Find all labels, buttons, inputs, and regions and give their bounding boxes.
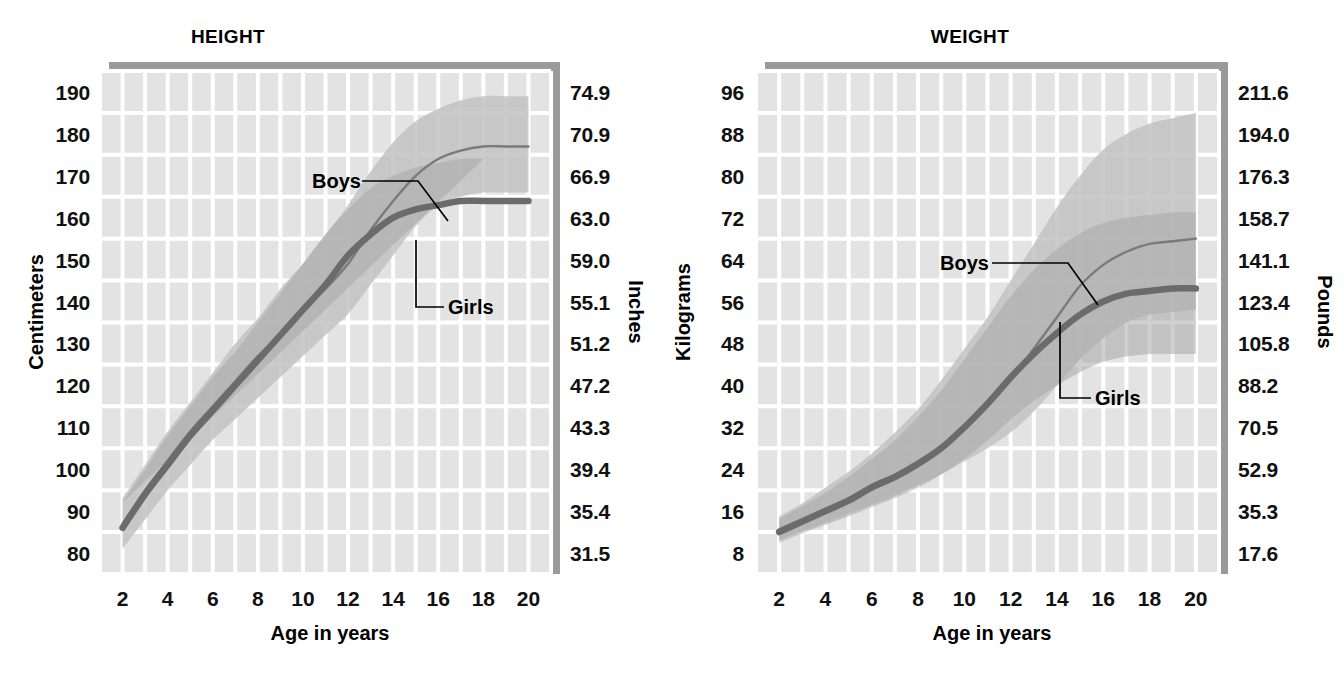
y-tick-label: 56	[721, 291, 744, 312]
height-y-right-title: Inches	[626, 280, 646, 343]
x-tick-label: 4	[162, 588, 174, 609]
y-tick-label-secondary: 35.4	[570, 501, 610, 522]
x-tick-label: 20	[517, 588, 540, 609]
x-tick-label: 6	[866, 588, 878, 609]
y-tick-label: 110	[57, 417, 90, 438]
height-panel-title: HEIGHT	[0, 26, 564, 48]
y-tick-label: 150	[56, 249, 90, 270]
y-tick-label: 40	[721, 375, 744, 396]
x-tick-label: 20	[1184, 588, 1207, 609]
weight-girls-label: Girls	[1095, 388, 1141, 408]
y-tick-label-secondary: 55.1	[570, 291, 610, 312]
y-tick-label-secondary: 43.3	[570, 417, 610, 438]
y-tick-label: 24	[721, 459, 744, 480]
y-tick-label-secondary: 66.9	[570, 165, 610, 186]
y-tick-label-secondary: 63.0	[570, 207, 610, 228]
y-tick-label: 64	[721, 249, 744, 270]
y-tick-label: 72	[721, 207, 744, 228]
height-panel: HEIGHT 190180170160150140130120110100908…	[0, 0, 672, 688]
y-tick-label: 80	[721, 165, 744, 186]
x-tick-label: 14	[1045, 588, 1068, 609]
y-tick-label: 48	[721, 333, 744, 354]
x-tick-label: 4	[820, 588, 832, 609]
weight-y-right-title: Pounds	[1315, 275, 1335, 348]
y-tick-label-secondary: 59.0	[570, 249, 610, 270]
y-tick-label-secondary: 39.4	[570, 459, 610, 480]
y-tick-label-secondary: 70.5	[1238, 417, 1278, 438]
x-tick-label: 6	[207, 588, 219, 609]
x-tick-label: 16	[427, 588, 450, 609]
x-tick-label: 2	[117, 588, 129, 609]
y-tick-label: 100	[56, 459, 90, 480]
y-tick-label-secondary: 105.8	[1238, 333, 1290, 354]
height-y-left-title: Centimeters	[26, 254, 46, 370]
weight-x-title: Age in years	[756, 622, 1228, 645]
x-tick-label: 18	[472, 588, 495, 609]
x-tick-label: 8	[252, 588, 264, 609]
y-tick-label: 80	[67, 543, 90, 564]
y-tick-label: 180	[56, 123, 90, 144]
y-tick-label-secondary: 194.0	[1238, 123, 1290, 144]
y-tick-label: 8	[733, 543, 744, 564]
x-tick-label: 14	[381, 588, 404, 609]
y-tick-label-secondary: 211.6	[1238, 81, 1288, 102]
y-tick-label: 120	[56, 375, 90, 396]
x-tick-label: 12	[999, 588, 1022, 609]
x-tick-label: 2	[773, 588, 785, 609]
weight-y-right-ticks: 211.6194.0176.3158.7141.1123.4105.888.27…	[1238, 62, 1324, 574]
y-tick-label: 130	[56, 333, 90, 354]
y-tick-label-secondary: 176.3	[1238, 165, 1290, 186]
x-tick-label: 18	[1138, 588, 1161, 609]
y-tick-label-secondary: 70.9	[570, 123, 610, 144]
y-tick-label-secondary: 47.2	[570, 375, 610, 396]
x-tick-label: 10	[953, 588, 976, 609]
x-tick-label: 10	[291, 588, 314, 609]
weight-plot-area	[756, 62, 1228, 574]
y-tick-label: 88	[721, 123, 744, 144]
y-tick-label-secondary: 141.1	[1238, 249, 1290, 270]
y-tick-label: 90	[67, 501, 90, 522]
y-tick-label: 32	[721, 417, 744, 438]
weight-x-ticks: 2468101214161820	[756, 588, 1228, 616]
y-tick-label-secondary: 31.5	[570, 543, 610, 564]
y-tick-label: 170	[56, 165, 90, 186]
y-tick-label-secondary: 88.2	[1238, 375, 1278, 396]
y-tick-label-secondary: 17.6	[1238, 543, 1278, 564]
weight-plot-svg	[756, 62, 1228, 574]
x-tick-label: 16	[1092, 588, 1115, 609]
y-tick-label: 96	[721, 81, 744, 102]
weight-boys-label: Boys	[940, 253, 989, 273]
y-tick-label-secondary: 158.7	[1238, 207, 1290, 228]
height-x-title: Age in years	[100, 622, 560, 645]
x-tick-label: 8	[912, 588, 924, 609]
y-tick-label-secondary: 123.4	[1238, 291, 1290, 312]
y-tick-label: 190	[56, 81, 90, 102]
y-tick-label: 160	[56, 207, 90, 228]
height-x-ticks: 2468101214161820	[100, 588, 560, 616]
growth-chart-figure: HEIGHT 190180170160150140130120110100908…	[0, 0, 1344, 688]
y-tick-label-secondary: 35.3	[1238, 501, 1278, 522]
weight-panel-title: WEIGHT	[628, 26, 1312, 48]
y-tick-label: 16	[721, 501, 744, 522]
height-boys-label: Boys	[312, 171, 361, 191]
y-tick-label-secondary: 52.9	[1238, 459, 1278, 480]
x-tick-label: 12	[336, 588, 359, 609]
y-tick-label-secondary: 51.2	[570, 333, 610, 354]
height-plot-area	[100, 62, 560, 574]
y-tick-label-secondary: 74.9	[570, 81, 610, 102]
y-tick-label: 140	[56, 291, 90, 312]
weight-y-left-title: Kilograms	[673, 263, 693, 361]
height-plot-svg	[100, 62, 560, 574]
height-girls-label: Girls	[448, 297, 494, 317]
